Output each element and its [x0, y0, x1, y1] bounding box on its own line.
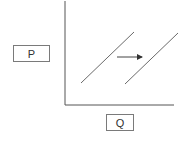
x-axis-label-text: Q: [116, 117, 125, 129]
supply-curve-shifted: [125, 33, 178, 84]
x-axis-label-quantity: Q: [106, 114, 134, 131]
y-axis-label-price: P: [13, 45, 50, 62]
y-axis-label-text: P: [28, 48, 35, 60]
diagram-canvas: [0, 0, 186, 141]
